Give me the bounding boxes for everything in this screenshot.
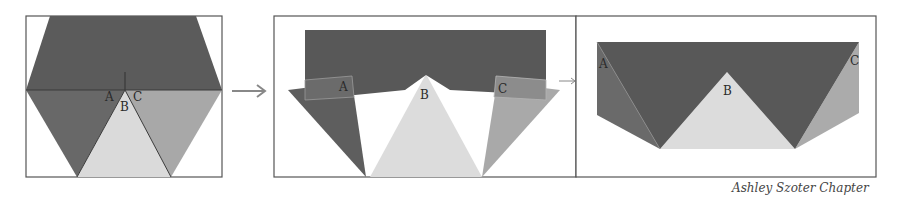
diagram-canvas: A B C A B C [0,0,904,218]
label-b: B [420,88,429,102]
panel-1: A B C [26,16,222,177]
label-c: C [133,90,142,104]
label-a: A [104,90,114,104]
label-b: B [120,100,129,114]
label-c: C [498,82,507,96]
signature: Ashley Szoter Chapter [731,181,870,195]
arrow-right-icon [232,85,265,97]
top-trapezoid [26,16,222,90]
label-c: C [850,54,859,68]
panel-2: A B C [274,16,576,177]
panel-3: A B C [576,16,876,177]
label-a: A [598,57,608,71]
label-a: A [338,80,348,94]
label-b: B [723,84,732,98]
